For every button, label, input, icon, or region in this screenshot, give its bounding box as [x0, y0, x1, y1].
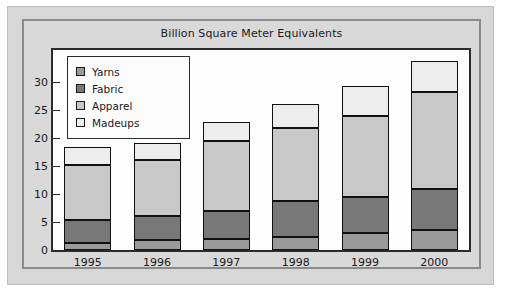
- legend-item-fabric[interactable]: Fabric: [76, 80, 181, 97]
- bar-segment-yarns[interactable]: [342, 233, 389, 250]
- bar-segment-madeups[interactable]: [64, 147, 111, 165]
- y-axis-tick-label: 0: [26, 244, 48, 257]
- x-axis-tick-label: 1998: [282, 256, 310, 269]
- x-axis-tick-label: 1999: [351, 256, 379, 269]
- y-axis-tick-mark: [53, 82, 60, 83]
- bar-segment-apparel[interactable]: [272, 128, 319, 201]
- y-axis-tick-mark: [53, 194, 60, 195]
- legend-swatch-icon: [76, 101, 85, 110]
- x-axis-tick-label: 1997: [212, 256, 240, 269]
- bar-segment-apparel[interactable]: [134, 160, 181, 216]
- bar-segment-apparel[interactable]: [342, 116, 389, 197]
- bar-stack[interactable]: [134, 142, 181, 250]
- bar-segment-madeups[interactable]: [272, 104, 319, 128]
- bar-segment-apparel[interactable]: [411, 92, 458, 189]
- legend-swatch-icon: [76, 118, 85, 127]
- bar-segment-fabric[interactable]: [272, 201, 319, 236]
- bar-segment-yarns[interactable]: [272, 237, 319, 250]
- y-axis-tick-label: 10: [26, 188, 48, 201]
- bar-stack[interactable]: [64, 147, 111, 250]
- y-axis-tick-label: 15: [26, 160, 48, 173]
- bar-segment-fabric[interactable]: [203, 211, 250, 239]
- y-axis-tick-label: 20: [26, 132, 48, 145]
- bar-segment-yarns[interactable]: [411, 230, 458, 250]
- legend-item-apparel[interactable]: Apparel: [76, 97, 181, 114]
- x-axis-tick-label: 2000: [420, 256, 448, 269]
- bar-segment-madeups[interactable]: [411, 61, 458, 92]
- chart-page: Billion Square Meter Equivalents 0510152…: [0, 0, 508, 299]
- legend-item-label: Yarns: [92, 66, 120, 78]
- y-axis-tick-mark: [53, 166, 60, 167]
- bar-segment-madeups[interactable]: [134, 143, 181, 161]
- y-axis-tick-mark: [53, 222, 60, 223]
- legend-swatch-icon: [76, 67, 85, 76]
- x-axis-tick-label: 1996: [143, 256, 171, 269]
- y-axis: 051015202530: [20, 0, 48, 299]
- y-axis-tick-mark: [53, 110, 60, 111]
- bar-segment-apparel[interactable]: [203, 141, 250, 211]
- bar-segment-fabric[interactable]: [411, 189, 458, 230]
- bar-segment-fabric[interactable]: [134, 216, 181, 240]
- bar-segment-madeups[interactable]: [203, 122, 250, 140]
- y-axis-tick-label: 30: [26, 76, 48, 89]
- legend-item-label: Fabric: [92, 83, 123, 95]
- bar-segment-yarns[interactable]: [203, 239, 250, 250]
- bar-stack[interactable]: [411, 61, 458, 250]
- y-axis-tick-label: 25: [26, 104, 48, 117]
- y-axis-tick-mark: [53, 138, 60, 139]
- bar-stack[interactable]: [342, 86, 389, 250]
- legend-item-madeups[interactable]: Madeups: [76, 114, 181, 131]
- legend-item-label: Madeups: [92, 117, 139, 129]
- y-axis-tick-label: 5: [26, 216, 48, 229]
- bar-stack[interactable]: [203, 122, 250, 250]
- bar-segment-fabric[interactable]: [342, 197, 389, 232]
- x-axis-tick-label: 1995: [74, 256, 102, 269]
- legend-swatch-icon: [76, 84, 85, 93]
- bar-stack[interactable]: [272, 104, 319, 250]
- legend: YarnsFabricApparelMadeups: [67, 56, 190, 139]
- bar-segment-fabric[interactable]: [64, 220, 111, 243]
- bar-segment-madeups[interactable]: [342, 86, 389, 116]
- legend-item-label: Apparel: [92, 100, 132, 112]
- page-title: Billion Square Meter Equivalents: [24, 22, 479, 46]
- bar-segment-apparel[interactable]: [64, 165, 111, 220]
- legend-item-yarns[interactable]: Yarns: [76, 63, 181, 80]
- bar-segment-yarns[interactable]: [134, 240, 181, 250]
- bar-segment-yarns[interactable]: [64, 243, 111, 250]
